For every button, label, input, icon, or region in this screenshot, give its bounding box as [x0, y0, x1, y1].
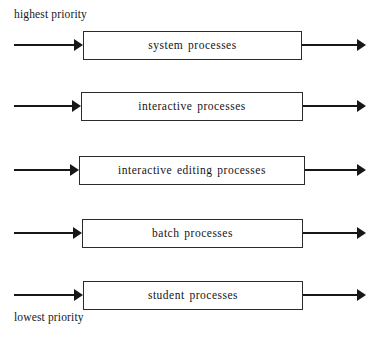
queue-box-label: interactive processes [138, 101, 245, 113]
queue-box-label: student processes [148, 290, 238, 302]
queue-input-arrow-icon [14, 289, 83, 301]
queue-output-arrow-icon [305, 164, 366, 176]
lowest-priority-label: lowest priority [14, 311, 84, 323]
queue-row: interactive processes [0, 90, 384, 124]
queue-box: system processes [83, 31, 302, 60]
queue-row: batch processes [0, 217, 384, 251]
queue-box: student processes [83, 281, 303, 310]
queue-output-arrow-icon [303, 100, 366, 112]
queue-box-label: batch processes [152, 228, 233, 240]
queue-box: interactive processes [81, 92, 303, 121]
multilevel-queue-diagram: highest priority system processesinterac… [0, 0, 384, 348]
queue-box: batch processes [82, 219, 303, 248]
queue-box-label: system processes [148, 40, 236, 52]
queue-output-arrow-icon [303, 289, 366, 301]
queue-input-arrow-icon [14, 39, 83, 51]
highest-priority-label: highest priority [14, 8, 87, 20]
queue-row: system processes [0, 29, 384, 63]
queue-row: interactive editing processes [0, 154, 384, 188]
queue-output-arrow-icon [302, 39, 366, 51]
queue-input-arrow-icon [14, 227, 82, 239]
queue-input-arrow-icon [14, 164, 79, 176]
queue-input-arrow-icon [14, 100, 81, 112]
queue-output-arrow-icon [303, 227, 366, 239]
queue-box: interactive editing processes [79, 156, 305, 185]
queue-box-label: interactive editing processes [118, 165, 266, 177]
queue-row: student processes [0, 279, 384, 313]
